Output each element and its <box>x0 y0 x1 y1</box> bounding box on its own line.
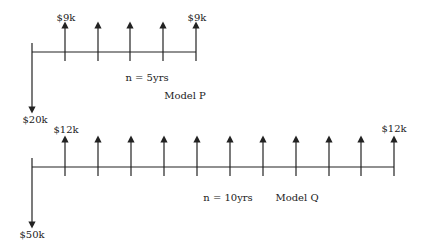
model-q-period-label: n = 10yrs <box>203 192 252 204</box>
model-p-last-inflow-label: $9k <box>188 12 207 24</box>
model-q-outflow-label: $50k <box>19 229 44 241</box>
model-p-model-label: Model P <box>164 90 206 102</box>
model-q-model-label: Model Q <box>275 192 318 204</box>
model-p-outflow-label: $20k <box>22 114 47 126</box>
model-q-diagram <box>32 139 394 225</box>
model-p-first-inflow-label: $9k <box>57 12 76 24</box>
cash-flow-diagrams: $9k $9k $20k n = 5yrs Model P $12k $12k … <box>0 0 424 249</box>
model-q-last-inflow-label: $12k <box>381 123 406 135</box>
model-p-period-label: n = 5yrs <box>125 72 168 84</box>
model-q-first-inflow-label: $12k <box>53 124 78 136</box>
